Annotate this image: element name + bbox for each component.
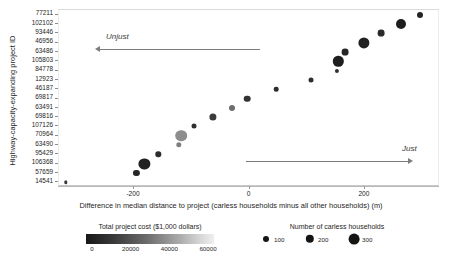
color-legend-title: Total project cost ($1,000 dollars) — [60, 223, 240, 230]
scatter-point — [417, 12, 423, 18]
scatter-point — [176, 142, 181, 147]
color-legend-tick-label: 20000 — [116, 245, 146, 252]
y-axis-tick-label: 12923 — [7, 76, 53, 82]
y-axis-tick-label: 106368 — [7, 159, 53, 165]
x-axis-tick-mark — [249, 186, 250, 189]
size-legend-dot — [349, 234, 360, 245]
annotation-unjust-line — [100, 49, 260, 50]
plot-area: Unjust Just — [58, 9, 439, 186]
arrow-right-icon — [408, 158, 413, 164]
y-axis-tick-label: 69816 — [7, 113, 53, 119]
y-axis-tick-label: 102102 — [7, 20, 53, 26]
scatter-point — [209, 114, 216, 121]
scatter-point — [396, 19, 406, 29]
x-axis-tick-label: -200 — [113, 190, 153, 197]
scatter-point — [229, 105, 235, 111]
color-legend-tick-label: 0 — [77, 245, 107, 252]
x-axis-tick-label: 200 — [344, 190, 384, 197]
chart-figure: Highway-capacity-expanding project ID 77… — [0, 0, 462, 265]
y-axis-tick-label: 107126 — [7, 122, 53, 128]
y-axis-tick-label: 70964 — [7, 131, 53, 137]
x-axis-title: Difference in median distance to project… — [0, 201, 462, 210]
y-axis-tick-label: 46187 — [7, 85, 53, 91]
scatter-point — [192, 124, 197, 129]
scatter-point — [244, 95, 251, 102]
scatter-point — [378, 30, 385, 37]
scatter-point — [342, 49, 349, 56]
scatter-point — [156, 152, 161, 157]
size-legend-label: 300 — [362, 236, 372, 243]
y-axis-tick-label: 84778 — [7, 66, 53, 72]
y-axis-tick-label: 46956 — [7, 38, 53, 44]
scatter-point — [64, 181, 67, 184]
y-axis-tick-label: 93446 — [7, 29, 53, 35]
y-axis-tick-label: 57659 — [7, 169, 53, 175]
size-legend-title: Number of carless households — [252, 223, 422, 230]
scatter-point — [308, 77, 313, 82]
size-legend-label: 100 — [274, 236, 284, 243]
y-axis-tick-label: 63490 — [7, 141, 53, 147]
x-axis-tick-label: 0 — [229, 190, 269, 197]
scatter-point — [176, 130, 188, 142]
scatter-point — [133, 170, 139, 176]
color-legend-gradient-bar — [86, 234, 214, 244]
annotation-just-label: Just — [402, 144, 417, 153]
y-axis-tick-label: 63491 — [7, 104, 53, 110]
size-legend-dot — [263, 236, 269, 242]
x-axis-tick-mark — [364, 186, 365, 189]
annotation-unjust-label: Unjust — [106, 32, 129, 41]
scatter-point — [274, 87, 279, 92]
color-legend-tick-label: 60000 — [193, 245, 223, 252]
y-axis-tick-label: 77211 — [7, 10, 53, 16]
arrow-left-icon — [95, 46, 100, 52]
y-axis-tick-label: 69817 — [7, 94, 53, 100]
x-axis-tick-mark — [133, 186, 134, 189]
scatter-point — [333, 56, 343, 66]
y-axis-tick-label: 63486 — [7, 48, 53, 54]
size-legend-dot — [306, 235, 314, 243]
scatter-point — [139, 158, 150, 169]
y-axis-tick-label: 105803 — [7, 57, 53, 63]
color-legend-tick-label: 40000 — [154, 245, 184, 252]
annotation-just-line — [246, 161, 408, 162]
y-axis-tick-label: 14541 — [7, 178, 53, 184]
scatter-point — [358, 37, 369, 48]
scatter-point — [335, 68, 339, 72]
size-legend-label: 200 — [318, 236, 328, 243]
y-axis-tick-label: 95429 — [7, 150, 53, 156]
